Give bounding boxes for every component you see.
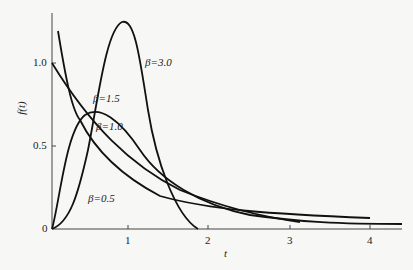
label-beta-1-5: β=1.5 [93, 92, 120, 104]
x-tick-4: 4 [367, 234, 373, 246]
label-beta-3: β=3.0 [145, 56, 172, 68]
y-tick-0-5: 0.5 [33, 139, 47, 151]
y-tick-0: 0 [42, 222, 48, 234]
label-beta-0-5: β=0.5 [88, 192, 115, 204]
weibull-chart [0, 0, 413, 270]
label-beta-1: β=1.0 [96, 120, 123, 132]
x-tick-1: 1 [125, 234, 131, 246]
x-axis-label: t [224, 247, 227, 259]
y-tick-1-0: 1.0 [33, 56, 47, 68]
y-axis-label: f(t) [15, 101, 27, 114]
curve-beta-3 [52, 22, 198, 229]
x-tick-3: 3 [287, 234, 293, 246]
x-tick-2: 2 [205, 234, 211, 246]
